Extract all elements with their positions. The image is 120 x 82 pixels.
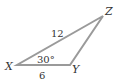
- side-xz-label: 12: [51, 28, 64, 39]
- vertex-x-label: X: [4, 60, 14, 73]
- triangle-diagram: X Y Z 12 30° 6: [0, 0, 120, 82]
- angle-x-label: 30°: [37, 54, 55, 65]
- vertex-y-label: Y: [72, 63, 81, 76]
- triangle-xyz: [17, 16, 103, 65]
- vertex-z-label: Z: [104, 5, 113, 18]
- side-xy-label: 6: [39, 70, 45, 81]
